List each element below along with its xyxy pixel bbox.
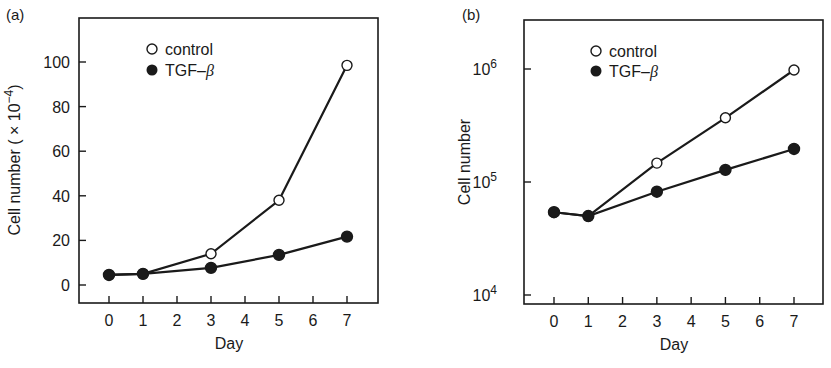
filled-circle-marker	[206, 262, 217, 273]
series-line-control	[554, 70, 794, 216]
legend-control-label: control	[609, 43, 657, 60]
x-tick-label: 1	[139, 312, 148, 329]
x-tick-label: 4	[687, 313, 696, 330]
filled-circle-marker	[720, 164, 731, 175]
panel-a-y-label: Cell number ( × 10−4)	[2, 84, 23, 235]
panel-a-x-axis: 01234567	[105, 296, 352, 329]
x-tick-label: 2	[173, 312, 182, 329]
filled-circle-marker	[274, 249, 285, 260]
y-tick-label: 105	[473, 170, 498, 191]
y-tick-label: 100	[43, 54, 70, 71]
series-line-control	[109, 65, 347, 275]
x-tick-label: 5	[721, 313, 730, 330]
filled-circle-marker	[342, 231, 353, 242]
panel-b-y-label: Cell number	[456, 118, 473, 205]
x-tick-label: 6	[309, 312, 318, 329]
open-circle-marker	[206, 249, 216, 259]
filled-circle-marker	[104, 269, 115, 280]
panel-b-series	[549, 65, 800, 222]
filled-circle-marker	[651, 186, 662, 197]
panel-b-x-label: Day	[660, 336, 688, 353]
y-tick-label: 40	[52, 188, 70, 205]
panel-b-cell-count-log: (b) 104105106 01234567 Day Cell number c…	[456, 6, 823, 353]
panel-b-frame	[524, 20, 823, 304]
panel-b-label: (b)	[462, 6, 480, 23]
x-tick-label: 7	[343, 312, 352, 329]
x-tick-label: 7	[790, 313, 799, 330]
y-tick-label: 106	[473, 57, 498, 78]
filled-circle-icon	[591, 66, 602, 77]
x-tick-label: 6	[755, 313, 764, 330]
filled-circle-marker	[549, 207, 560, 218]
y-tick-label: 80	[52, 99, 70, 116]
x-tick-label: 3	[207, 312, 216, 329]
panel-a-frame	[79, 18, 378, 303]
open-circle-marker	[274, 195, 284, 205]
x-tick-label: 0	[105, 312, 114, 329]
filled-circle-marker	[138, 268, 149, 279]
open-circle-icon	[591, 46, 601, 56]
y-tick-label: 104	[473, 283, 498, 304]
x-tick-label: 5	[275, 312, 284, 329]
y-tick-label: 0	[61, 277, 70, 294]
figure: (a) 020406080100 01234567 Day Cell numbe…	[0, 0, 831, 368]
x-tick-label: 3	[652, 313, 661, 330]
x-tick-label: 4	[241, 312, 250, 329]
legend-tgf-label: TGF–β	[165, 62, 214, 80]
panel-b-x-axis: 01234567	[550, 297, 799, 330]
open-circle-marker	[720, 113, 730, 123]
x-tick-label: 1	[584, 313, 593, 330]
open-circle-marker	[342, 60, 352, 70]
legend-tgf-label: TGF–β	[609, 63, 658, 81]
legend-control-label: control	[165, 41, 213, 58]
filled-circle-marker	[789, 143, 800, 154]
x-tick-label: 0	[550, 313, 559, 330]
open-circle-marker	[789, 65, 799, 75]
panel-a-legend: control TGF–β	[147, 41, 214, 80]
y-tick-label: 60	[52, 143, 70, 160]
panel-b-legend: control TGF–β	[591, 43, 658, 81]
panel-b-y-axis: 104105106	[473, 57, 531, 304]
panel-a-x-label: Day	[215, 335, 243, 352]
filled-circle-icon	[147, 65, 158, 76]
open-circle-marker	[652, 158, 662, 168]
series-line-tgf-beta	[554, 149, 794, 216]
x-tick-label: 2	[618, 313, 627, 330]
panel-a-series	[104, 60, 353, 280]
y-tick-label: 20	[52, 232, 70, 249]
filled-circle-marker	[583, 211, 594, 222]
panel-a-cell-count-linear: (a) 020406080100 01234567 Day Cell numbe…	[2, 6, 378, 352]
open-circle-icon	[147, 44, 157, 54]
panel-a-label: (a)	[6, 6, 24, 23]
